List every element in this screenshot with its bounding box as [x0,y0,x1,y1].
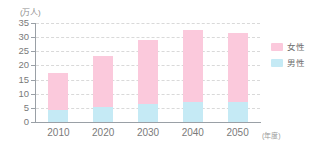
bar-group [48,23,68,122]
y-axis-tick [31,51,35,52]
chart-legend: 女性男性 [271,43,305,67]
y-axis-tick [31,108,35,109]
bar-segment-female [138,40,158,104]
x-axis-tick-label: 2040 [171,127,215,138]
y-axis-unit-label: (万人) [20,6,41,17]
bar-segment-female [228,33,248,103]
bar-segment-female [48,73,68,110]
y-axis-tick-label: 35 [0,18,29,28]
y-axis-tick-label: 10 [0,89,29,99]
bar-group [228,23,248,122]
bar-group [183,23,203,122]
legend-swatch-icon [271,59,283,67]
legend-label: 男性 [287,59,305,68]
legend-label: 女性 [287,43,305,52]
bar-chart: (万人) 05101520253035 20102020203020402050… [0,0,309,149]
bar-segment-male [138,104,158,122]
bar-group [138,23,158,122]
y-axis-tick [31,23,35,24]
y-axis-tick-label: 15 [0,75,29,85]
x-axis-tick-label: 2020 [81,127,125,138]
plot-area [36,23,260,122]
bar-group [93,23,113,122]
legend-swatch-icon [271,43,283,51]
bar-segment-male [48,110,68,122]
x-axis-tick-label: 2050 [216,127,260,138]
y-axis-tick [31,65,35,66]
y-axis-tick-label: 30 [0,32,29,42]
x-axis-tick-label: 2030 [126,127,170,138]
bar-segment-male [228,102,248,122]
y-axis-tick [31,94,35,95]
bar-segment-female [93,56,113,107]
gridline [36,122,260,123]
bar-segment-male [183,102,203,122]
x-axis-tick-label: 2010 [36,127,80,138]
y-axis-tick [31,80,35,81]
bar-segment-female [183,30,203,102]
y-axis-tick-label: 0 [0,117,29,127]
bar-segment-male [93,107,113,122]
y-axis-tick-label: 20 [0,60,29,70]
legend-item[interactable]: 女性 [271,43,305,52]
legend-item[interactable]: 男性 [271,59,305,68]
y-axis-tick-label: 25 [0,46,29,56]
y-axis-tick [31,37,35,38]
x-axis-unit-label: (年度) [262,130,281,140]
y-axis-tick [31,122,35,123]
y-axis-tick-label: 5 [0,103,29,113]
